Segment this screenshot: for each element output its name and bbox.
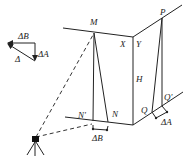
legend-delta-label: Δ <box>14 54 20 64</box>
label-delta-b: ΔB <box>91 133 103 143</box>
legend-delta-a-label: ΔA <box>37 49 49 59</box>
dashed-sight-line-to-n-prime <box>36 124 92 137</box>
legend-delta-b-label: ΔB <box>17 31 29 41</box>
label-m: M <box>89 17 98 27</box>
left-sight-lines <box>92 33 108 131</box>
label-y: Y <box>136 39 142 49</box>
label-q-prime: Q' <box>164 92 173 102</box>
label-q: Q <box>141 105 148 115</box>
right-sight-lines <box>152 18 168 119</box>
label-n-prime: N' <box>77 110 87 120</box>
building-outline <box>63 5 183 125</box>
delta-arrow <box>8 44 35 61</box>
legend-triangle <box>8 43 35 61</box>
tripod-icon <box>27 136 44 156</box>
diagram-canvas: ΔB ΔA Δ M X Y P H <box>0 0 190 166</box>
label-n: N <box>111 109 119 119</box>
label-x: X <box>119 39 126 49</box>
label-h: H <box>135 74 143 84</box>
label-delta-a: ΔA <box>160 117 172 127</box>
label-p: P <box>159 7 166 17</box>
